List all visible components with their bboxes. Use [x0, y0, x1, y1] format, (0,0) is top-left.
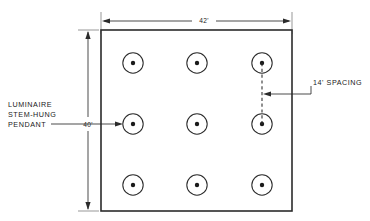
luminaire-symbol: [187, 114, 207, 134]
luminaire-label-line-2: STEM-HUNG: [8, 110, 56, 119]
luminaire-center-dot: [260, 183, 264, 187]
luminaire-label-line-1: LUMINAIRE: [8, 100, 52, 109]
luminaire-center-dot: [195, 122, 199, 126]
luminaire-symbol: [187, 175, 207, 195]
luminaire-center-dot: [195, 61, 199, 65]
luminaire-center-dot: [131, 122, 135, 126]
room-width-label: 42': [199, 17, 209, 24]
spacing-label: 14' SPACING: [313, 78, 362, 87]
arrowhead-width-right: [283, 18, 291, 23]
lighting-layout-drawing: 42' 40': [0, 0, 370, 221]
luminaire-center-dot: [195, 183, 199, 187]
arrowhead-height-bottom: [85, 202, 90, 210]
luminaire-label-line-3: PENDANT: [8, 120, 46, 129]
arrowhead-width-left: [102, 18, 110, 23]
luminaire-symbol: [123, 114, 143, 134]
luminaire-symbol: [123, 53, 143, 73]
luminaire-center-dot: [131, 183, 135, 187]
arrowhead-height-top: [85, 31, 90, 39]
luminaire-symbol: [187, 53, 207, 73]
drawing-canvas: 42' 40': [0, 0, 370, 221]
luminaire-symbol: [123, 175, 143, 195]
luminaire-center-dot: [131, 61, 135, 65]
luminaire-symbol: [252, 175, 272, 195]
